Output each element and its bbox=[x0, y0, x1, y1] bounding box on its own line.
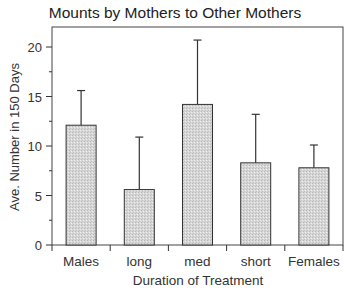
y-axis-label: Ave. Number in 150 Days bbox=[7, 63, 22, 211]
y-tick-label: 20 bbox=[28, 40, 42, 55]
y-tick-label: 0 bbox=[35, 238, 42, 253]
bar-females bbox=[299, 168, 329, 245]
bar-chart: Mounts by Mothers to Other Mothers Ave. … bbox=[0, 0, 350, 294]
y-tick-label: 5 bbox=[35, 189, 42, 204]
x-tick-label: med bbox=[184, 254, 210, 269]
x-tick-label: Females bbox=[288, 254, 340, 269]
x-tick-label: Males bbox=[63, 254, 99, 269]
y-tick-label: 15 bbox=[28, 90, 42, 105]
bar-med bbox=[183, 104, 213, 245]
x-tick-label: long bbox=[127, 254, 153, 269]
x-tick-label: short bbox=[241, 254, 271, 269]
plot-area: 05101520MaleslongmedshortFemales bbox=[0, 0, 350, 294]
x-axis-label: Duration of Treatment bbox=[52, 273, 344, 288]
chart-title: Mounts by Mothers to Other Mothers bbox=[0, 4, 350, 22]
bar-males bbox=[66, 125, 96, 245]
y-tick-label: 10 bbox=[28, 139, 42, 154]
bar-long bbox=[124, 190, 154, 245]
bar-short bbox=[241, 163, 271, 245]
